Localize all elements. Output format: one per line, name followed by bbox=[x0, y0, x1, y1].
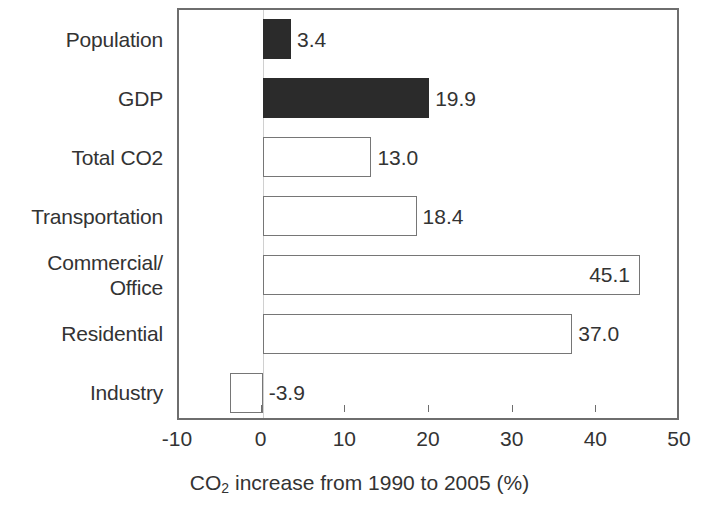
x-axis-title-pre: CO bbox=[190, 471, 222, 494]
bar-value-label: 45.1 bbox=[550, 264, 630, 285]
bar-row: 3.4 bbox=[179, 19, 677, 59]
category-label-residential: Residential bbox=[61, 321, 163, 346]
bar-value-label: 3.4 bbox=[297, 29, 326, 50]
bar-transportation[interactable] bbox=[263, 196, 417, 236]
x-axis-title-post: increase from 1990 to 2005 (%) bbox=[229, 471, 529, 494]
category-label-population: Population bbox=[66, 27, 163, 52]
x-tick-label: 10 bbox=[314, 427, 374, 451]
x-tick-mark bbox=[261, 405, 262, 412]
category-label-total-co2: Total CO2 bbox=[71, 145, 163, 170]
chart-page: PopulationGDPTotal CO2TransportationComm… bbox=[0, 0, 719, 510]
bar-value-label: 37.0 bbox=[578, 323, 619, 344]
bar-row: 19.9 bbox=[179, 78, 677, 118]
bar-residential[interactable] bbox=[263, 314, 573, 354]
x-tick-label: 20 bbox=[398, 427, 458, 451]
x-tick-label: 30 bbox=[482, 427, 542, 451]
plot-area: 3.419.913.018.445.137.0-3.9 bbox=[177, 8, 679, 420]
bar-row: 45.1 bbox=[179, 255, 677, 295]
x-tick-mark bbox=[512, 405, 513, 412]
bar-row: 37.0 bbox=[179, 314, 677, 354]
x-axis-title-subscript: 2 bbox=[221, 480, 229, 496]
category-axis-labels: PopulationGDPTotal CO2TransportationComm… bbox=[0, 10, 168, 420]
category-label-transportation: Transportation bbox=[31, 204, 163, 229]
x-tick-mark bbox=[595, 405, 596, 412]
x-tick-label: -10 bbox=[147, 427, 207, 451]
x-tick-mark bbox=[344, 405, 345, 412]
x-tick-label: 0 bbox=[231, 427, 291, 451]
category-label-commercial-office: Commercial/ Office bbox=[47, 250, 163, 300]
x-tick-label: 50 bbox=[649, 427, 709, 451]
bar-population[interactable] bbox=[263, 19, 291, 59]
bar-value-label: 19.9 bbox=[435, 88, 476, 109]
x-tick-mark bbox=[428, 405, 429, 412]
category-label-industry: Industry bbox=[90, 380, 163, 405]
x-tick-label: 40 bbox=[565, 427, 625, 451]
bar-industry[interactable] bbox=[230, 373, 263, 413]
bar-gdp[interactable] bbox=[263, 78, 429, 118]
bar-value-label: -3.9 bbox=[269, 382, 305, 403]
x-axis-title: CO2 increase from 1990 to 2005 (%) bbox=[0, 470, 719, 498]
bar-row: 18.4 bbox=[179, 196, 677, 236]
category-label-gdp: GDP bbox=[118, 86, 163, 111]
bar-value-label: 18.4 bbox=[423, 206, 464, 227]
bar-total-co2[interactable] bbox=[263, 137, 372, 177]
bar-row: 13.0 bbox=[179, 137, 677, 177]
bar-value-label: 13.0 bbox=[377, 147, 418, 168]
